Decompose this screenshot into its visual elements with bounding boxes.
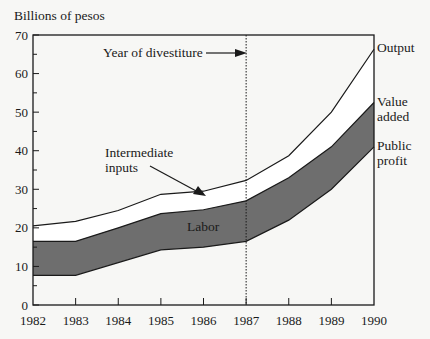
- y-tick-label: 70: [15, 28, 28, 43]
- x-tick-label: 1985: [148, 313, 174, 328]
- divestiture-label: Year of divestiture: [103, 45, 203, 60]
- chart-canvas: Billions of pesos 010203040506070 198219…: [0, 0, 430, 339]
- x-tick-label: 1984: [105, 313, 132, 328]
- y-tick-label: 20: [15, 220, 28, 235]
- value-added-label-line1: Value: [377, 94, 408, 109]
- y-tick-label: 60: [15, 66, 28, 81]
- public-profit-label-line1: Public: [377, 138, 412, 153]
- public-profit-label-line2: profit: [377, 153, 407, 168]
- output-label: Output: [377, 40, 415, 55]
- y-tick-label: 50: [15, 105, 28, 120]
- y-tick-label: 0: [22, 298, 29, 313]
- x-tick-label: 1987: [233, 313, 260, 328]
- x-tick-label: 1990: [361, 313, 387, 328]
- x-tick-label: 1988: [276, 313, 302, 328]
- intermediate-inputs-arrow-icon: [150, 166, 206, 196]
- y-tick-label: 40: [15, 143, 28, 158]
- y-tick-label: 10: [15, 259, 28, 274]
- x-tick-label: 1989: [318, 313, 344, 328]
- x-tick-label: 1986: [191, 313, 218, 328]
- divestiture-arrow-icon: [206, 49, 247, 57]
- intermediate-inputs-label-line1: Intermediate: [105, 145, 173, 160]
- intermediate-inputs-label-line2: inputs: [105, 160, 138, 175]
- labor-label: Labor: [187, 219, 220, 234]
- x-tick-label: 1982: [20, 313, 46, 328]
- y-tick-label: 30: [15, 182, 28, 197]
- x-tick-label: 1983: [63, 313, 89, 328]
- y-axis-label: Billions of pesos: [14, 8, 105, 23]
- chart-bands: [33, 49, 374, 275]
- x-axis-ticks: 198219831984198519861987198819891990: [20, 298, 387, 328]
- value-added-label-line2: added: [377, 109, 409, 124]
